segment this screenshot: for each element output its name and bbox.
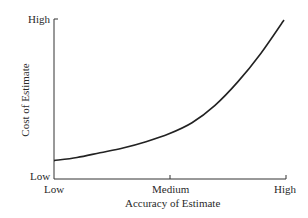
x-axis-title: Accuracy of Estimate [125,197,220,209]
x-tick-label-high: High [274,183,296,195]
x-tick-label-medium: Medium [152,183,189,195]
y-tick-label-low: Low [30,170,50,182]
y-tick-label-high: High [28,13,50,25]
x-tick-label-low: Low [44,183,64,195]
y-axis-title: Cost of Estimate [19,55,31,145]
cost-curve [54,20,284,161]
